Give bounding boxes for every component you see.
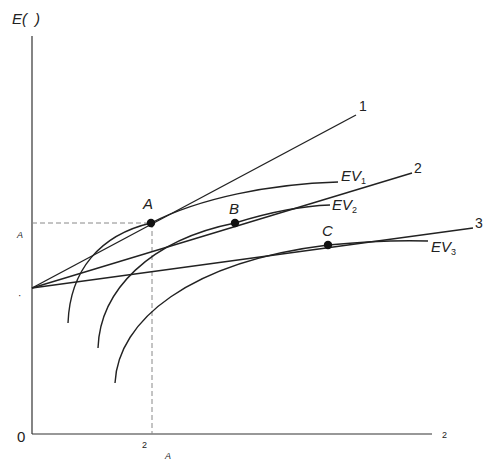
point-c	[324, 241, 332, 249]
x-tick-label: 2	[142, 440, 147, 450]
y-tick-label: A	[16, 230, 23, 240]
curve-ev2	[98, 205, 330, 348]
curve-ev1-label: EV1	[341, 167, 366, 186]
y-axis-label: E()	[12, 10, 40, 27]
line-2-label: 2	[414, 160, 422, 176]
line-3-label: 3	[475, 215, 483, 231]
point-a-label: A	[142, 195, 153, 212]
diagram-canvas: E() 0 2 2 A A · 1 2 3 EV1 EV2 EV3 A B C	[0, 0, 497, 469]
point-c-label: C	[322, 222, 333, 239]
x-tick-sublabel: A	[164, 451, 171, 461]
point-b	[231, 219, 239, 227]
curve-ev2-label: EV2	[332, 196, 357, 215]
curve-ev3-label: EV3	[431, 238, 456, 257]
curve-ev3	[115, 241, 428, 383]
line-3	[32, 228, 473, 288]
line-1-label: 1	[359, 98, 367, 114]
line-1	[32, 115, 356, 288]
point-a	[147, 219, 155, 227]
origin-label: 0	[17, 428, 25, 445]
x-axis-end-label: 2	[442, 430, 447, 440]
intercept-marker: ·	[18, 290, 21, 301]
point-b-label: B	[229, 200, 239, 217]
